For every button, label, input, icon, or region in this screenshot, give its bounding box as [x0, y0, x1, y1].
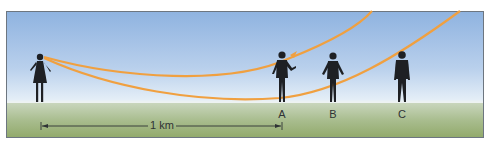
person-b-figure [322, 52, 344, 102]
diagram-scene [0, 0, 490, 146]
person-c-figure [394, 51, 410, 102]
person-a-label: A [278, 108, 285, 120]
ray-lower [44, 11, 460, 99]
person-c-label: C [398, 108, 406, 120]
person-a-figure [272, 51, 296, 102]
person-b-label: B [329, 108, 336, 120]
observer-woman-figure [30, 54, 51, 102]
ray-upper [44, 11, 372, 76]
scale-bar-label: 1 km [148, 119, 176, 131]
